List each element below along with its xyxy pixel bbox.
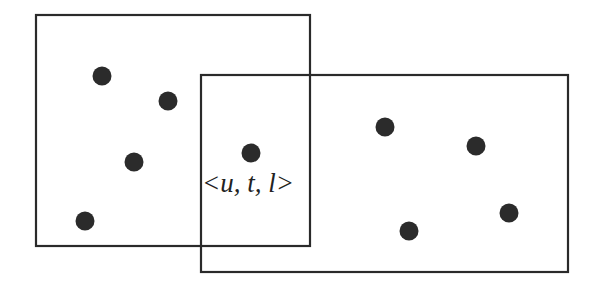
left-region-points [76,67,178,231]
point [400,222,419,241]
point [125,153,144,172]
overlapping-regions-diagram: <u, t, l> [0,0,595,286]
right-region-points [376,118,519,241]
overlap-point [242,144,261,163]
point [159,92,178,111]
point [76,212,95,231]
point [376,118,395,137]
overlap-point-label: <u, t, l> [202,168,294,198]
left-region-rectangle [36,15,310,246]
point [93,67,112,86]
point [467,137,486,156]
point [500,204,519,223]
